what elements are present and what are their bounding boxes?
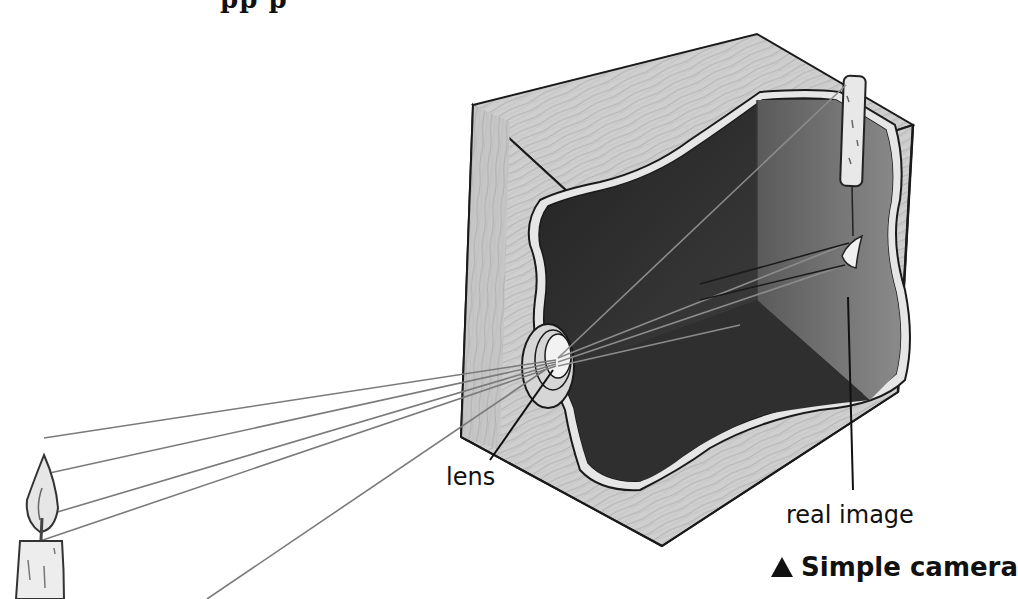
candle-object bbox=[16, 455, 64, 599]
real-image-label: real image bbox=[786, 503, 914, 527]
figure-caption: Simple camera bbox=[771, 554, 1018, 580]
triangle-up-icon bbox=[771, 557, 793, 577]
lens-label: lens bbox=[446, 465, 495, 489]
candle-body bbox=[16, 541, 64, 599]
caption-text: Simple camera bbox=[801, 554, 1018, 580]
camera-box bbox=[461, 34, 913, 546]
